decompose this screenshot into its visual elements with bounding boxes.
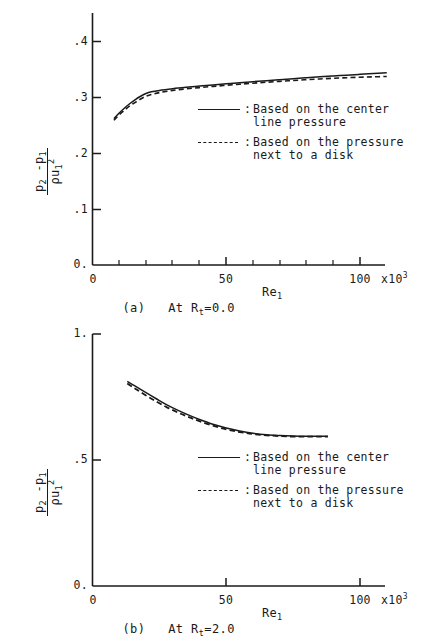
- figure-a: .4 .3 .2 .1 0. 0 50 100 x103 Re1 p2 -p1 …: [0, 0, 445, 318]
- legend-a: : Based on the centerline pressure : Bas…: [196, 103, 404, 169]
- ytick-label-a-3: .3: [58, 92, 88, 104]
- legend-label-b-0: Based on the centerline pressure: [253, 451, 389, 477]
- xtick-label-b-100: 100: [340, 595, 380, 607]
- legend-b: : Based on the centerline pressure : Bas…: [196, 451, 404, 517]
- x-exponent-mantissa-a: x10: [381, 272, 403, 286]
- y-axis-numerator-b: p2 -p1: [33, 469, 47, 516]
- xtick-label-a-0: 0: [73, 274, 113, 286]
- ytick-label-b-05: .5: [58, 454, 88, 466]
- caption-a-prefix: (a) At R: [123, 301, 199, 315]
- caption-a-sub: t: [199, 307, 205, 317]
- legend-label-a-0: Based on the centerline pressure: [253, 103, 389, 129]
- x-exponent-power-b: 3: [403, 592, 408, 601]
- y-axis-fraction-a: p2 -p1 ρu12: [33, 148, 61, 195]
- caption-b: (b) At Rt=2.0: [92, 608, 235, 640]
- xtick-label-a-50: 50: [206, 274, 246, 286]
- legend-key-solid-icon-b: [196, 451, 242, 464]
- x-axis-title-b: Re1: [262, 606, 282, 620]
- x-axis-title-sub-b: 1: [277, 612, 282, 622]
- x-exponent-mantissa-b: x10: [381, 593, 403, 607]
- caption-b-prefix: (b) At R: [123, 622, 199, 636]
- caption-b-suffix: =2.0: [204, 622, 235, 636]
- legend-colon-b-1: :: [242, 484, 253, 497]
- x-axis-title-a: Re1: [262, 285, 282, 299]
- legend-label-b-0-line1: Based on the center: [253, 450, 389, 464]
- legend-key-solid-icon-a: [196, 103, 242, 116]
- xtick-label-a-100: 100: [340, 274, 380, 286]
- y-axis-title-b: p2 -p1 ρu12: [32, 469, 61, 516]
- y-axis-denominator-a: ρu12: [48, 156, 62, 188]
- legend-row-solid-a: : Based on the centerline pressure: [196, 103, 404, 129]
- legend-row-solid-b: : Based on the centerline pressure: [196, 451, 404, 477]
- legend-label-b-1: Based on the pressurenext to a disk: [253, 484, 404, 510]
- x-axis-title-text-a: Re: [262, 285, 277, 299]
- x-axis-title-text-b: Re: [262, 606, 277, 620]
- ytick-label-b-0: 0.: [58, 580, 88, 592]
- caption-b-sub: t: [199, 628, 205, 638]
- legend-row-dashed-a: : Based on the pressurenext to a disk: [196, 136, 404, 162]
- caption-a-suffix: =0.0: [204, 301, 235, 315]
- legend-label-b-1-line1: Based on the pressure: [253, 483, 404, 497]
- ytick-label-a-0: 0.: [58, 259, 88, 271]
- xtick-label-b-0: 0: [73, 595, 113, 607]
- xtick-label-b-50: 50: [206, 595, 246, 607]
- y-axis-fraction-b: p2 -p1 ρu12: [33, 469, 61, 516]
- legend-label-a-1-line2: next to a disk: [253, 148, 353, 162]
- x-major-ticks-a: [226, 257, 360, 265]
- legend-colon-a-1: :: [242, 136, 253, 149]
- legend-colon-b-0: :: [242, 451, 253, 464]
- y-major-ticks-a: [93, 42, 102, 210]
- legend-label-b-1-line2: next to a disk: [253, 496, 353, 510]
- ytick-label-b-1: 1.: [58, 328, 88, 340]
- legend-label-a-1-line1: Based on the pressure: [253, 135, 404, 149]
- x-major-ticks-b: [226, 578, 360, 586]
- x-axis-title-sub-a: 1: [277, 291, 282, 301]
- legend-key-dashed-icon-b: [196, 484, 242, 497]
- x-exponent-power-a: 3: [403, 271, 408, 280]
- ytick-label-a-2: .2: [58, 148, 88, 160]
- figure-b: 1. .5 0. 0 50 100 x103 Re1 p2 -p1 ρu12 :…: [0, 318, 445, 635]
- ytick-label-a-1: .1: [58, 204, 88, 216]
- legend-label-a-1: Based on the pressurenext to a disk: [253, 136, 404, 162]
- x-exponent-a: x103: [381, 274, 408, 286]
- x-exponent-b: x103: [381, 595, 408, 607]
- legend-label-a-0-line2: line pressure: [253, 115, 346, 129]
- y-axis-denominator-b: ρu12: [48, 477, 62, 509]
- ytick-label-a-4: .4: [58, 36, 88, 48]
- legend-label-b-0-line2: line pressure: [253, 463, 346, 477]
- legend-key-dashed-icon-a: [196, 136, 242, 149]
- y-major-ticks-b: [93, 334, 102, 460]
- legend-label-a-0-line1: Based on the center: [253, 102, 389, 116]
- legend-colon-a-0: :: [242, 103, 253, 116]
- y-axis-title-a: p2 -p1 ρu12: [32, 148, 61, 195]
- legend-row-dashed-b: : Based on the pressurenext to a disk: [196, 484, 404, 510]
- y-axis-numerator-a: p2 -p1: [33, 148, 47, 195]
- series-line-solid-b: [127, 381, 328, 436]
